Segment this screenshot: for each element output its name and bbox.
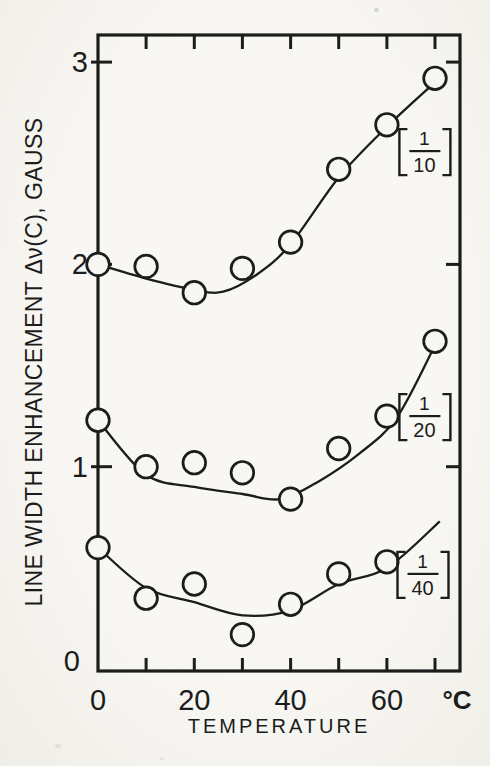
data-point [279, 488, 302, 511]
x-tick-label: 60 [371, 684, 403, 716]
x-axis-unit-label: °C [442, 685, 471, 715]
y-tick-label: 0 [64, 645, 80, 677]
right-bracket [442, 394, 450, 440]
data-point [424, 67, 447, 90]
x-tick-label: 0 [90, 684, 106, 716]
series-label: 140 [398, 551, 449, 599]
data-point [231, 623, 254, 646]
data-point [183, 451, 206, 474]
data-point [424, 330, 447, 353]
right-bracket [441, 552, 449, 598]
left-bracket [399, 129, 407, 175]
data-point [279, 593, 302, 616]
left-bracket [398, 552, 406, 598]
y-tick-label: 1 [72, 451, 88, 483]
fraction-numerator: 1 [417, 551, 428, 572]
data-point [376, 551, 399, 574]
fraction-denominator: 10 [413, 154, 435, 176]
fraction-numerator: 1 [419, 128, 430, 149]
data-point [87, 409, 110, 432]
data-point [327, 563, 350, 586]
data-point [135, 455, 158, 478]
data-point [231, 462, 254, 485]
data-point [327, 437, 350, 460]
fraction-denominator: 20 [413, 419, 435, 441]
x-axis-title: TEMPERATURE [98, 713, 460, 739]
data-point [183, 281, 206, 304]
data-point [183, 573, 206, 596]
y-tick-label: 3 [72, 46, 88, 78]
data-point [279, 231, 302, 254]
x-tick-label: 20 [178, 684, 210, 716]
data-point [327, 158, 350, 181]
right-bracket [442, 129, 450, 175]
data-point [135, 255, 158, 278]
data-point [376, 405, 399, 428]
data-point [135, 587, 158, 610]
plot-frame [98, 35, 460, 671]
series-label: 110 [399, 128, 450, 176]
fraction-denominator: 40 [411, 577, 433, 599]
fraction-numerator: 1 [419, 393, 430, 414]
data-point [376, 114, 399, 137]
plot-area: 01230204060°C110120140 [0, 0, 490, 766]
data-point [231, 257, 254, 280]
scanned-chart-page: LINE WIDTH ENHANCEMENT Δν(C), GAUSS 0123… [0, 0, 490, 766]
data-point [87, 536, 110, 559]
data-point [87, 253, 110, 276]
x-tick-label: 40 [274, 684, 306, 716]
